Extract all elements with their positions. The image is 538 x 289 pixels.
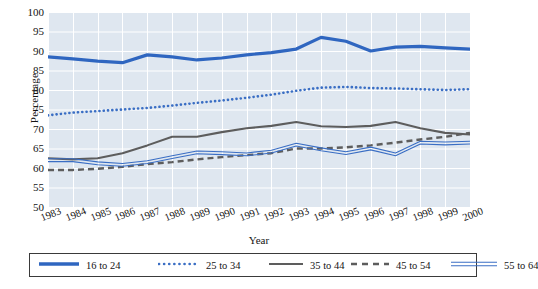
legend-label: 25 to 34 [206,260,240,271]
legend-item[interactable]: 55 to 64 [450,254,538,276]
x-axis-title: Year [48,234,470,246]
legend-label: 45 to 54 [396,260,430,271]
legend-swatch-icon [450,256,498,274]
legend-label: 16 to 24 [86,260,120,271]
legend-swatch-icon [38,256,80,274]
legend-item[interactable]: 25 to 34 [158,254,240,276]
x-axis-tick-label: 1998 [411,205,435,223]
legend-item[interactable]: 45 to 54 [350,254,430,276]
x-axis-tick-label: 1989 [188,205,212,223]
x-axis-tick-label: 1984 [64,205,88,223]
legend-swatch-icon [158,256,200,274]
x-axis-tick-label: 1991 [238,205,262,223]
x-axis-tick-label: 1992 [262,205,286,223]
x-axis-tick-label: 1988 [163,205,187,223]
x-axis-tick-label: 2000 [461,205,485,223]
legend-label: 35 to 44 [310,260,344,271]
legend-item[interactable]: 35 to 44 [268,254,344,276]
x-axis-tick-label: 1996 [362,205,386,223]
x-axis-tick-label: 1985 [89,205,113,223]
x-axis-tick-label: 1999 [436,205,460,223]
x-axis-tick-label: 1986 [113,205,137,223]
x-axis-tick-label: 1990 [213,205,237,223]
x-axis-tick-label: 1987 [138,205,162,223]
x-axis-tick-label: 1993 [287,205,311,223]
legend-swatch-icon [350,256,390,274]
legend: 16 to 2425 to 3435 to 4445 to 5455 to 64 [29,253,477,277]
legend-item[interactable]: 16 to 24 [38,254,120,276]
x-axis-tick-label: 1983 [39,205,63,223]
x-axis-tick-label: 1994 [312,205,336,223]
legend-swatch-icon [268,256,304,274]
legend-label: 55 to 64 [504,260,538,271]
x-axis-tick-label: 1997 [387,205,411,223]
x-axis-tick-label: 1995 [337,205,361,223]
